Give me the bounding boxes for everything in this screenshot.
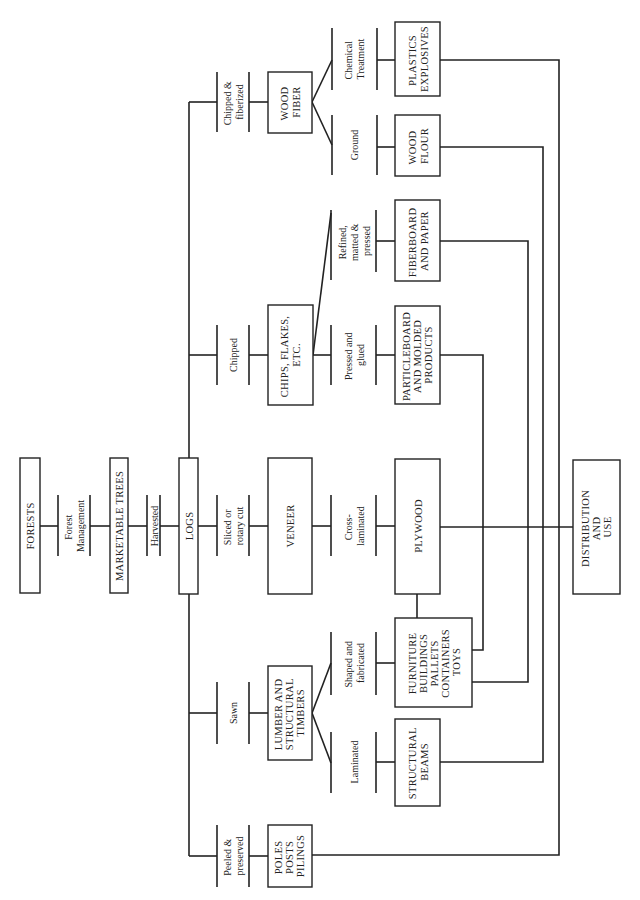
svg-text:LOGS: LOGS (184, 512, 195, 541)
svg-text:POLES POSTS PILING: POLES POSTS PILINGS (273, 835, 306, 877)
svg-text:Cross- laminated: Cross- laminated (343, 506, 366, 545)
svg-text:PLASTICS EXPLOSIVES: PLASTICS EXPLOSIVES (407, 26, 430, 92)
label-chipped-fiberized: Chipped & fiberized (222, 79, 245, 126)
node-logs: LOGS (179, 458, 198, 594)
svg-text:Ground: Ground (349, 130, 360, 161)
label-forest-management: Forest Management (63, 500, 86, 552)
node-wood-fiber: WOOD FIBER (268, 72, 312, 133)
node-furniture: FURNITURE BUILDINGS PALLETS CONTAINERS T… (395, 618, 472, 707)
node-structural-beams: STRUCTURAL BEAMS (395, 719, 440, 806)
node-distribution: DISTRIBUTION AND USE (573, 460, 620, 594)
svg-text:MARKETABLE TREES: MARKETABLE TREES (114, 471, 125, 581)
svg-text:Sliced or rotary cut: Sliced or rotary cut (222, 506, 245, 545)
forest-products-diagram: FORESTS MARKETABLE TREES LOGS VENEER CHI… (0, 0, 640, 900)
svg-text:Peeled & preserved: Peeled & preserved (222, 836, 245, 875)
node-wood-flour: WOOD FLOUR (395, 115, 440, 176)
svg-text:Shaped and fabricated: Shaped and fabricated (343, 639, 366, 688)
svg-text:Harvested: Harvested (149, 506, 160, 547)
label-pressed-glued: Pressed and glued (343, 330, 366, 380)
svg-text:Chemical Treatment: Chemical Treatment (343, 38, 366, 79)
label-chemical-treatment: Chemical Treatment (343, 38, 366, 79)
node-particleboard: PARTICLEBOARD AND MOLDED PRODUCTS (395, 306, 440, 404)
label-laminated: Laminated (349, 741, 360, 784)
svg-text:Chipped & fiberized: Chipped & fiberized (222, 79, 245, 126)
node-chips: CHIPS, FLAKES, ETC. (268, 305, 313, 405)
svg-text:Refined, matted &: Refined, matted & pressed (337, 221, 372, 261)
svg-text:FORESTS: FORESTS (25, 502, 36, 549)
svg-text:FIBERBOARD AND PAPER: FIBERBOARD AND PAPER (407, 205, 430, 277)
svg-text:Laminated: Laminated (349, 741, 360, 784)
svg-text:Pressed and glued: Pressed and glued (343, 330, 366, 380)
label-shaped-fabricated: Shaped and fabricated (343, 639, 366, 688)
svg-text:Sawn: Sawn (228, 702, 239, 724)
svg-text:Forest Management: Forest Management (63, 500, 86, 552)
svg-text:PLYWOOD: PLYWOOD (413, 499, 424, 553)
label-ground: Ground (349, 130, 360, 161)
node-plastics: PLASTICS EXPLOSIVES (395, 22, 440, 96)
label-refined: Refined, matted & pressed (337, 221, 372, 261)
label-peeled: Peeled & preserved (222, 836, 245, 875)
svg-text:WOOD FLOUR: WOOD FLOUR (407, 128, 430, 165)
label-sliced: Sliced or rotary cut (222, 506, 245, 545)
svg-text:WOOD FIBER: WOOD FIBER (279, 84, 302, 121)
label-sawn: Sawn (228, 702, 239, 724)
node-veneer: VENEER (268, 458, 312, 594)
node-marketable-trees: MARKETABLE TREES (110, 458, 128, 593)
svg-text:Chipped: Chipped (228, 338, 239, 372)
node-fiberboard: FIBERBOARD AND PAPER (395, 200, 440, 281)
node-forests: FORESTS (20, 458, 40, 593)
label-cross-laminated: Cross- laminated (343, 506, 366, 545)
label-chipped: Chipped (228, 338, 239, 372)
node-lumber: LUMBER AND STRUCTURAL TIMBERS (268, 666, 312, 760)
label-harvested: Harvested (149, 506, 160, 547)
node-plywood: PLYWOOD (395, 459, 440, 594)
svg-text:VENEER: VENEER (285, 504, 296, 547)
node-poles: POLES POSTS PILINGS (268, 825, 312, 887)
